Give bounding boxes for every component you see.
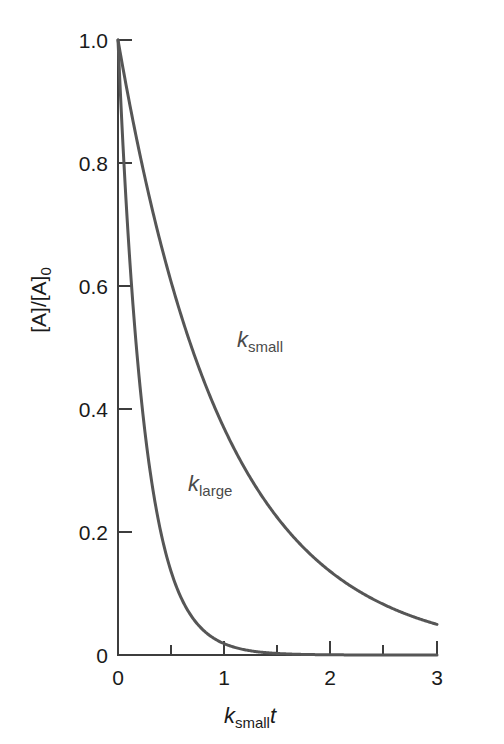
x-axis-title-tail: t bbox=[270, 703, 277, 728]
y-axis-title: [A]/[A]0 bbox=[27, 267, 54, 333]
x-tick-label-1: 1 bbox=[218, 666, 230, 689]
y-tick-label-0.8: 0.8 bbox=[79, 152, 108, 175]
x-tick-label-2: 2 bbox=[324, 666, 336, 689]
curve-label-k-small-subscript: small bbox=[248, 338, 283, 355]
curve-label-k-large-subscript: large bbox=[199, 482, 232, 499]
y-tick-label-0.6: 0.6 bbox=[79, 275, 108, 298]
x-axis-title-subscript: small bbox=[235, 714, 270, 731]
y-axis-title-main: [A]/[A] bbox=[27, 276, 50, 333]
y-tick-label-1.0: 1.0 bbox=[79, 29, 108, 52]
y-axis-title-subscript: 0 bbox=[37, 267, 54, 275]
chart-background bbox=[0, 0, 504, 744]
y-tick-label-0.2: 0.2 bbox=[79, 521, 108, 544]
exponential-decay-chart: 1.0 0.8 0.6 0.4 0.2 0 0 1 2 3 [A]/[A]0 k… bbox=[0, 0, 504, 744]
x-tick-label-3: 3 bbox=[431, 666, 443, 689]
y-axis-title-text: [A]/[A]0 bbox=[27, 267, 54, 333]
y-tick-label-0.4: 0.4 bbox=[79, 398, 109, 421]
y-tick-label-0: 0 bbox=[96, 644, 108, 667]
x-tick-label-0: 0 bbox=[112, 666, 124, 689]
